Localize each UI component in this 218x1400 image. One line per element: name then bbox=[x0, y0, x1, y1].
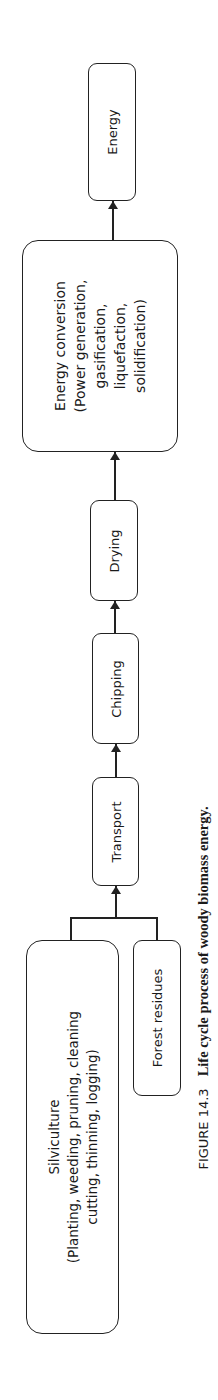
label-line: (Power generation, bbox=[70, 280, 90, 413]
node-energy-label: Energy bbox=[104, 109, 121, 155]
node-chipping: Chipping bbox=[92, 633, 139, 744]
figure-caption: FIGURE 14.3Life cycle process of woody b… bbox=[195, 806, 212, 1169]
figure-caption-text: Life cycle process of woody biomass ener… bbox=[195, 806, 211, 1076]
node-forest-residues-label: Forest residues bbox=[149, 969, 166, 1068]
label-line: (Planting, weeding, pruning, cleaning bbox=[63, 1011, 82, 1263]
node-energy-conversion: Energy conversion (Power generation, gas… bbox=[22, 240, 178, 452]
arrowhead-icon bbox=[111, 886, 121, 894]
arrowhead-icon bbox=[111, 744, 121, 752]
node-transport: Transport bbox=[92, 777, 139, 886]
node-chipping-label: Chipping bbox=[107, 660, 124, 718]
node-forest-residues: Forest residues bbox=[133, 940, 181, 1096]
edge-merge-bar bbox=[70, 917, 158, 919]
label-line: Energy conversion bbox=[50, 280, 70, 413]
arrowhead-icon bbox=[110, 452, 120, 460]
node-silviculture-label: Silviculture (Planting, weeding, pruning… bbox=[44, 1011, 101, 1263]
figure-number: FIGURE 14.3 bbox=[196, 1088, 211, 1169]
label-line: cutting, thinning, logging) bbox=[82, 1011, 101, 1263]
label-line: Silviculture bbox=[44, 1011, 63, 1263]
node-energy: Energy bbox=[88, 63, 136, 201]
arrowhead-icon bbox=[110, 601, 120, 609]
node-silviculture: Silviculture (Planting, weeding, pruning… bbox=[26, 940, 119, 1334]
node-drying: Drying bbox=[90, 500, 138, 601]
node-transport-label: Transport bbox=[107, 801, 124, 862]
label-line: solidification) bbox=[130, 280, 150, 413]
node-drying-label: Drying bbox=[106, 529, 123, 572]
label-line: gasification, bbox=[90, 280, 110, 413]
node-energy-conversion-label: Energy conversion (Power generation, gas… bbox=[50, 280, 150, 413]
arrowhead-icon bbox=[108, 201, 118, 209]
edge-from-forest-residues bbox=[156, 917, 158, 941]
label-line: liquefaction, bbox=[110, 280, 130, 413]
edge-from-silviculture bbox=[70, 917, 72, 941]
